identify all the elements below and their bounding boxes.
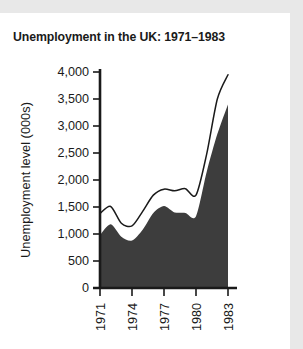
svg-text:3,500: 3,500 [57, 92, 89, 106]
unemployment-area-chart: 05001,0001,5002,0002,5003,0003,5004,000 … [0, 13, 290, 349]
svg-text:1,500: 1,500 [57, 200, 89, 214]
svg-text:4,000: 4,000 [57, 65, 89, 79]
svg-text:1974: 1974 [126, 303, 140, 331]
svg-text:0: 0 [82, 281, 89, 295]
svg-text:2,500: 2,500 [57, 146, 89, 160]
x-axis-tick-labels: 19711974197719801983 [94, 288, 236, 331]
svg-text:3,000: 3,000 [57, 119, 89, 133]
svg-text:1980: 1980 [190, 303, 204, 331]
svg-text:1983: 1983 [222, 303, 236, 331]
chart-plot-area: 05001,0001,5002,0002,5003,0003,5004,000 … [0, 13, 290, 349]
svg-text:2,000: 2,000 [57, 173, 89, 187]
svg-text:1971: 1971 [94, 303, 108, 331]
y-axis-title: Unemployment level (000s) [18, 102, 33, 258]
y-axis-tick-labels: 05001,0001,5002,0002,5003,0003,5004,000 [57, 65, 100, 295]
svg-text:500: 500 [68, 254, 89, 268]
svg-text:Unemployment level (000s): Unemployment level (000s) [18, 102, 33, 258]
svg-text:1,000: 1,000 [57, 227, 89, 241]
series-filled-area [100, 104, 228, 288]
figure-card: Unemployment in the UK: 1971–1983 05001,… [0, 13, 290, 349]
svg-text:1977: 1977 [158, 303, 172, 331]
